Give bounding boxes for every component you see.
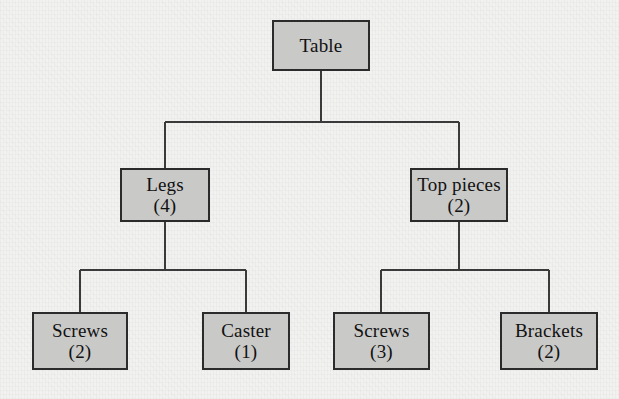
node-legs-quantity: (4): [154, 195, 177, 216]
node-screws-top-label: Screws: [353, 320, 409, 341]
node-table[interactable]: Table: [272, 20, 370, 71]
node-top-pieces-label: Top pieces: [417, 174, 501, 195]
node-brackets-quantity: (2): [538, 341, 561, 362]
node-table-label: Table: [300, 35, 343, 56]
node-caster-quantity: (1): [235, 341, 258, 362]
node-top-pieces-quantity: (2): [448, 195, 471, 216]
node-screws-top[interactable]: Screws (3): [333, 312, 430, 370]
node-top-pieces[interactable]: Top pieces (2): [410, 168, 508, 222]
node-legs[interactable]: Legs (4): [120, 168, 210, 222]
node-screws-legs-label: Screws: [52, 320, 108, 341]
node-legs-label: Legs: [146, 174, 184, 195]
node-screws-legs-quantity: (2): [69, 341, 92, 362]
node-screws-legs[interactable]: Screws (2): [32, 312, 128, 370]
node-caster-label: Caster: [221, 320, 271, 341]
node-screws-top-quantity: (3): [370, 341, 393, 362]
node-caster[interactable]: Caster (1): [202, 312, 290, 370]
node-brackets-label: Brackets: [515, 320, 583, 341]
diagram-canvas: Table Legs (4) Top pieces (2) Screws (2)…: [0, 0, 619, 399]
node-brackets[interactable]: Brackets (2): [500, 312, 598, 370]
